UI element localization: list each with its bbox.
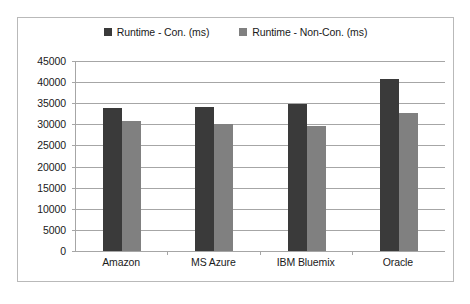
- bar-group: [353, 61, 445, 251]
- x-axis-tick-mark: [352, 251, 353, 255]
- y-axis-tick-label: 35000: [37, 97, 66, 109]
- x-axis-tick-mark: [260, 251, 261, 255]
- y-axis: 4500040000350003000025000200001500010000…: [18, 61, 70, 251]
- bar-con[interactable]: [103, 108, 122, 251]
- bar-non-con[interactable]: [214, 124, 233, 251]
- bar-con[interactable]: [288, 104, 307, 251]
- y-axis-tick-label: 25000: [37, 139, 66, 151]
- chart-frame: Runtime - Con. (ms) Runtime - Non-Con. (…: [17, 17, 454, 282]
- bar-non-con[interactable]: [122, 121, 141, 251]
- y-axis-tick-label: 15000: [37, 182, 66, 194]
- y-axis-tick-label: 30000: [37, 118, 66, 130]
- bar-group: [76, 61, 168, 251]
- y-axis-tick-label: 45000: [37, 55, 66, 67]
- bar-group: [261, 61, 353, 251]
- x-axis-tick-label: IBM Bluemix: [260, 256, 352, 268]
- bar-con[interactable]: [195, 107, 214, 251]
- plot-wrapper: 4500040000350003000025000200001500010000…: [18, 18, 453, 281]
- y-axis-tick-label: 40000: [37, 76, 66, 88]
- bar-non-con[interactable]: [399, 113, 418, 251]
- x-axis-tick-label: MS Azure: [167, 256, 259, 268]
- y-axis-tick-label: 10000: [37, 203, 66, 215]
- y-axis-tick-label: 5000: [43, 224, 66, 236]
- y-axis-tick-mark: [72, 251, 76, 252]
- bar-con[interactable]: [380, 79, 399, 251]
- x-axis-tick-label: Amazon: [75, 256, 167, 268]
- x-axis-tick-mark: [167, 251, 168, 255]
- x-axis: AmazonMS AzureIBM BluemixOracle: [75, 256, 444, 268]
- bar-group: [168, 61, 260, 251]
- y-axis-tick-label: 0: [60, 245, 66, 257]
- y-axis-tick-label: 20000: [37, 161, 66, 173]
- x-axis-tick-label: Oracle: [352, 256, 444, 268]
- bar-non-con[interactable]: [307, 126, 326, 251]
- bars-layer: [76, 61, 445, 251]
- plot-area: [75, 61, 445, 252]
